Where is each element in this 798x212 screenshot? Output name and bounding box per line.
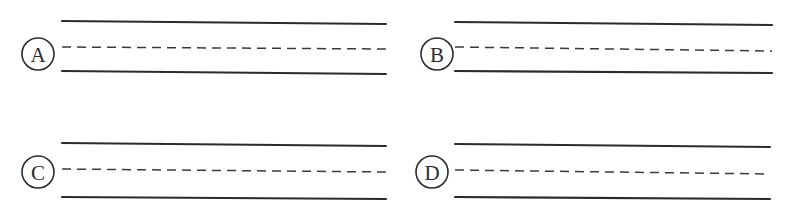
panel-c-label: C bbox=[31, 161, 45, 185]
panel-d-center-line bbox=[455, 170, 770, 174]
panel-b-label: B bbox=[430, 43, 444, 67]
panel-d-bottom-wall bbox=[455, 197, 770, 199]
panel-b: B bbox=[399, 0, 798, 106]
panel-a-graphic: A bbox=[0, 0, 399, 106]
panel-a: A bbox=[0, 0, 399, 106]
panel-b-center-line bbox=[455, 47, 772, 51]
panel-c-graphic: C bbox=[0, 106, 399, 212]
panel-d-graphic: D bbox=[399, 106, 798, 212]
panel-c-bottom-wall bbox=[62, 197, 386, 199]
panel-c-center-line bbox=[62, 169, 386, 172]
panel-b-bottom-wall bbox=[455, 71, 772, 73]
panel-a-bottom-wall bbox=[62, 71, 386, 74]
figure-root: A B C D bbox=[0, 0, 798, 212]
panel-c: C bbox=[0, 106, 399, 212]
panel-a-center-line bbox=[62, 47, 386, 49]
panel-a-top-wall bbox=[62, 21, 386, 24]
panel-d-label: D bbox=[424, 161, 439, 185]
panel-c-top-wall bbox=[62, 143, 386, 146]
panel-d-top-wall bbox=[455, 144, 770, 147]
panel-d: D bbox=[399, 106, 798, 212]
panel-b-graphic: B bbox=[399, 0, 798, 106]
panel-b-top-wall bbox=[455, 22, 772, 25]
panel-a-label: A bbox=[30, 43, 46, 67]
